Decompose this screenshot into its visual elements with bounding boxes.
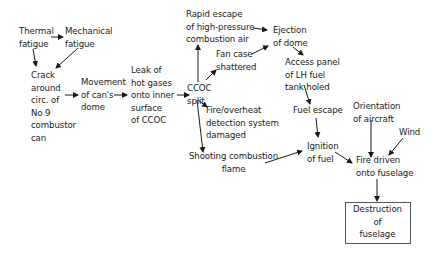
node-shooting-flame: Shooting combustion flame — [189, 150, 278, 175]
edge-thermal-crack — [33, 49, 36, 66]
edge-ccoc-shooting-flame — [197, 100, 203, 152]
node-ignition: Ignition of fuel — [307, 140, 339, 165]
node-mechanical-fatigue: Mechanical fatigue — [65, 25, 112, 50]
edge-fuel-escape-ignition — [316, 118, 318, 137]
node-thermal-fatigue: Thermal fatigue — [19, 25, 54, 50]
node-destruction: Destruction of fuselage — [349, 203, 406, 241]
node-ejection-dome: Ejection of dome — [273, 24, 308, 49]
node-fire-driven: Fire driven onto fuselage — [356, 154, 413, 179]
node-orientation: Orientation of aircraft — [353, 100, 400, 125]
node-crack: Crack around circ. of No 9 combustor can — [31, 69, 76, 144]
edge-mechanical-crack — [56, 48, 78, 68]
edge-wind-fire-driven — [389, 138, 403, 155]
diagram-canvas: Thermal fatigue Mechanical fatigue Crack… — [0, 0, 433, 258]
node-fan-case: Fan case shattered — [216, 48, 256, 73]
node-fire-detection: Fire/overheat detection system damaged — [206, 104, 279, 142]
node-fuel-escape: Fuel escape — [293, 104, 343, 117]
node-leak: Leak of hot gases onto inner surface of … — [131, 64, 174, 127]
node-movement: Movement of can's dome — [81, 76, 126, 114]
edge-rapid-ejection — [253, 28, 267, 30]
node-rapid-escape: Rapid escape of high-pressure combustion… — [186, 8, 254, 46]
edge-ccoc-fan-case — [206, 70, 216, 80]
node-wind: Wind — [399, 126, 420, 139]
node-access-panel: Access panel of LH fuel tank holed — [285, 56, 340, 94]
